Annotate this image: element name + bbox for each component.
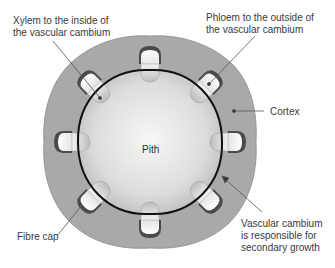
cambium-label: Vascular cambium is responsible for seco… bbox=[241, 218, 323, 254]
xylem-label: Xylem to the inside of the vascular camb… bbox=[13, 15, 110, 39]
phloem-label-line1: Phloem to the outside of bbox=[206, 12, 314, 24]
cambium-label-line3: secondary growth bbox=[241, 242, 323, 254]
xylem-label-line2: the vascular cambium bbox=[13, 27, 110, 39]
phloem-label: Phloem to the outside of the vascular ca… bbox=[206, 12, 314, 36]
pith-label: Pith bbox=[142, 144, 159, 155]
fibre-cap-label: Fibre cap bbox=[17, 231, 59, 243]
cambium-label-line2: is responsible for bbox=[241, 230, 323, 242]
xylem-label-line1: Xylem to the inside of bbox=[13, 15, 110, 27]
phloem-label-line2: the vascular cambium bbox=[206, 24, 314, 36]
cortex-label: Cortex bbox=[270, 106, 299, 118]
cambium-label-line1: Vascular cambium bbox=[241, 218, 323, 230]
